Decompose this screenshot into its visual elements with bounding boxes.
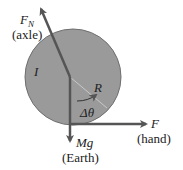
disk — [25, 29, 121, 125]
moment-of-inertia-label: I — [34, 65, 38, 78]
weight-label: Mg — [76, 136, 93, 149]
angle-label: Δθ — [80, 106, 94, 119]
weight-source: (Earth) — [62, 151, 99, 164]
radius-label: R — [94, 81, 102, 94]
normal-force-source: (axle) — [12, 28, 42, 41]
hand-force-source: (hand) — [137, 132, 171, 145]
hand-force-label: F — [151, 117, 159, 130]
